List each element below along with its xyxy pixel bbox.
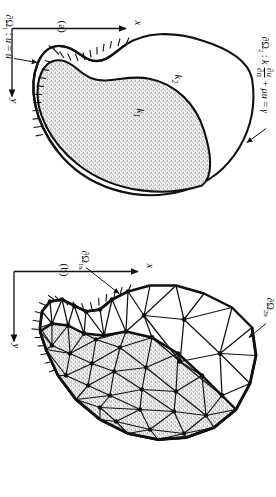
panel-b: ∂Ω2h ∂Ω1h x y (b): [0, 249, 276, 497]
figure-stage: k1 k2 ∂Ω1 : u = û ∂Ω2 : k ∂u∂n + μu = γ …: [0, 0, 276, 497]
axis-label-x-a: x: [133, 20, 144, 25]
leader-robin-a: [247, 128, 266, 142]
panel-caption-b: (b): [59, 263, 70, 276]
bc-robin-h-label-b: ∂Ω2h: [262, 297, 275, 316]
leader-dirichlet-a: [14, 58, 37, 62]
bc-dirichlet-h-label-b: ∂Ω1h: [77, 250, 90, 269]
axis-label-y-b: y: [11, 343, 22, 348]
material-label-k1: k1: [132, 108, 146, 117]
panel-b-graphics: [0, 249, 276, 497]
panel-a-graphics: [0, 0, 276, 248]
bc-dirichlet-label-a: ∂Ω1 : u = û: [1, 14, 14, 58]
axis-label-x-b: x: [145, 263, 156, 268]
normal-derivative-fraction: ∂u∂n: [254, 67, 274, 78]
figure-page: k1 k2 ∂Ω1 : u = û ∂Ω2 : k ∂u∂n + μu = γ …: [0, 0, 276, 497]
bc-robin-label-a: ∂Ω2 : k ∂u∂n + μu = γ: [254, 36, 274, 113]
panel-caption-a: (a): [57, 20, 68, 32]
panel-a: k1 k2 ∂Ω1 : u = û ∂Ω2 : k ∂u∂n + μu = γ …: [0, 0, 276, 248]
axis-label-y-a: y: [9, 98, 20, 103]
material-label-k2: k2: [170, 74, 184, 83]
